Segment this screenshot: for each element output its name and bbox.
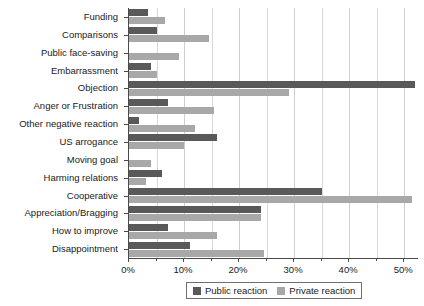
x-axis-tick-label: 50%	[394, 264, 413, 275]
bar-private	[129, 196, 412, 203]
bar-private	[129, 53, 179, 60]
x-axis-tick	[403, 258, 404, 262]
y-axis-label: How to improve	[52, 225, 118, 236]
legend-item-public: Public reaction	[193, 285, 267, 296]
x-axis-tick-minor	[376, 258, 377, 261]
y-axis-label: Objection	[78, 82, 118, 93]
x-axis-tick	[183, 258, 184, 262]
y-axis-label: Harming relations	[44, 172, 118, 183]
bar-spacer	[129, 70, 418, 71]
x-axis-tick-label: 20%	[229, 264, 248, 275]
bar-private	[129, 107, 214, 114]
x-axis-tick	[293, 258, 294, 262]
x-axis-line	[128, 258, 418, 259]
bar-public	[129, 117, 139, 124]
bar-public	[129, 170, 162, 177]
y-axis-category-labels: FundingComparisonsPublic face-savingEmba…	[0, 8, 124, 258]
bar-group	[129, 26, 418, 44]
x-axis-tick-minor	[211, 258, 212, 261]
bar-group	[129, 115, 418, 133]
bar-public	[129, 9, 148, 16]
legend-label-public: Public reaction	[205, 285, 267, 296]
legend-label-private: Private reaction	[289, 285, 355, 296]
legend-item-private: Private reaction	[277, 285, 355, 296]
bar-private	[129, 35, 209, 42]
y-axis-label: Other negative reaction	[19, 118, 118, 129]
bar-public	[129, 188, 322, 195]
bar-public	[129, 206, 261, 213]
bar-group	[129, 187, 418, 205]
x-axis-tick-label: 0%	[121, 264, 135, 275]
bar-private	[129, 142, 184, 149]
legend-swatch-private-icon	[277, 287, 285, 295]
x-axis-tick-label: 10%	[174, 264, 193, 275]
y-axis-label: Moving goal	[67, 154, 118, 165]
y-axis-label: Anger or Frustration	[34, 100, 118, 111]
bar-public	[129, 27, 157, 34]
bar-group	[129, 240, 418, 258]
y-axis-label: Cooperative	[67, 190, 118, 201]
plot-area	[128, 8, 418, 258]
bar-private	[129, 71, 157, 78]
x-axis-tick	[238, 258, 239, 262]
bar-spacer	[129, 159, 418, 160]
bar-chart: FundingComparisonsPublic face-savingEmba…	[0, 0, 424, 306]
bar-private	[129, 160, 151, 167]
bar-public	[129, 134, 217, 141]
bar-private	[129, 125, 195, 132]
bar-private	[129, 89, 289, 96]
bar-spacer	[129, 16, 418, 17]
bar-group	[129, 44, 418, 62]
bar-group	[129, 222, 418, 240]
y-axis-label: Funding	[84, 11, 118, 22]
bar-group	[129, 151, 418, 169]
bar-group	[129, 97, 418, 115]
y-axis-label: Disappointment	[52, 243, 118, 254]
bar-private	[129, 250, 264, 257]
bar-spacer	[129, 177, 418, 178]
bar-private	[129, 178, 146, 185]
bar-rows	[129, 8, 418, 258]
x-axis-tick-minor	[266, 258, 267, 261]
bar-private	[129, 17, 165, 24]
bar-group	[129, 79, 418, 97]
y-axis-label: Appreciation/Bragging	[25, 207, 118, 218]
x-axis-tick	[348, 258, 349, 262]
x-axis-tick-minor	[321, 258, 322, 261]
bar-group	[129, 62, 418, 80]
bar-public	[129, 99, 168, 106]
x-axis-tick-label: 40%	[339, 264, 358, 275]
bar-group	[129, 204, 418, 222]
y-axis-label: Public face-saving	[41, 47, 118, 58]
bar-private	[129, 232, 217, 239]
chart-legend: Public reaction Private reaction	[186, 282, 362, 299]
y-axis-label: US arrogance	[59, 136, 118, 147]
x-axis-tick-minor	[156, 258, 157, 261]
bar-group	[129, 8, 418, 26]
x-axis-tick	[128, 258, 129, 262]
bar-public	[129, 224, 168, 231]
bar-public	[129, 81, 415, 88]
bar-private	[129, 214, 261, 221]
x-axis-tick-label: 30%	[284, 264, 303, 275]
y-axis-label: Comparisons	[62, 29, 118, 40]
y-axis-label: Embarrassment	[51, 65, 118, 76]
bar-public	[129, 242, 190, 249]
bar-group	[129, 169, 418, 187]
bar-group	[129, 133, 418, 151]
legend-swatch-public-icon	[193, 287, 201, 295]
bar-public	[129, 63, 151, 70]
